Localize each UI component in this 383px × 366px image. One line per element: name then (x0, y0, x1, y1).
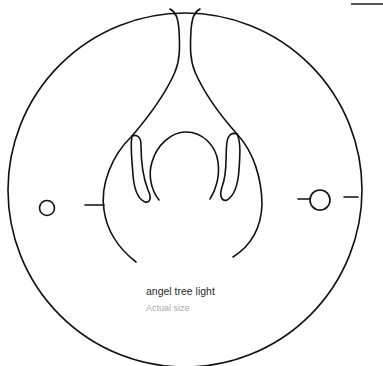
wing-left (131, 135, 150, 202)
right-dot (310, 190, 330, 210)
wing-right (221, 133, 240, 200)
neck-left (132, 9, 180, 136)
outer-circle (8, 13, 362, 366)
diagram-title: angel tree light (146, 285, 215, 297)
angel-tree-light-diagram (0, 0, 383, 366)
body-right-arc (233, 134, 262, 257)
diagram-subtitle: Actual size (146, 303, 190, 313)
halo-arch (150, 132, 218, 200)
neck-right (190, 9, 237, 134)
left-dot (40, 201, 55, 216)
